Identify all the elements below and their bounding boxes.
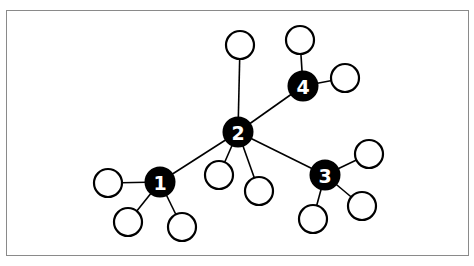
leaf-node: [245, 177, 273, 205]
leaf-node: [355, 140, 383, 168]
hub-node-3: 3: [310, 160, 341, 191]
hub-label: 2: [231, 122, 244, 144]
leaf-node: [348, 192, 376, 220]
hub-label: 4: [296, 76, 309, 98]
leaf-node: [168, 213, 196, 241]
leaf-node: [226, 31, 254, 59]
leaf-node: [286, 26, 314, 54]
hub-label: 1: [153, 172, 166, 194]
leaf-node: [299, 205, 327, 233]
hub-node-1: 1: [145, 167, 176, 198]
network-graph: 1234: [0, 0, 474, 266]
leaf-node: [114, 208, 142, 236]
leaf-node: [94, 169, 122, 197]
hub-node-4: 4: [288, 71, 319, 102]
hub-label: 3: [318, 165, 331, 187]
leaf-node: [331, 64, 359, 92]
hub-node-2: 2: [223, 117, 254, 148]
leaf-node: [205, 161, 233, 189]
